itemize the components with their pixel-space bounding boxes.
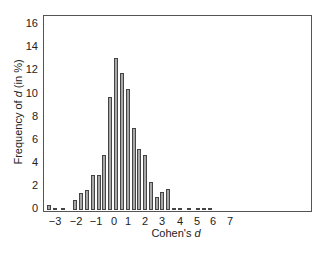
histogram-bar — [137, 149, 141, 210]
histogram-bar — [208, 208, 212, 210]
histogram-bar — [132, 128, 136, 210]
histogram-bar — [120, 73, 124, 210]
y-tick-label: 0 — [18, 202, 38, 214]
histogram-bar — [108, 97, 112, 210]
histogram-bar — [172, 208, 176, 210]
histogram-bar — [73, 200, 77, 210]
x-tick-label: −1 — [86, 215, 106, 227]
histogram-bar — [53, 208, 57, 210]
histogram-bar — [126, 89, 130, 210]
histogram-bar — [91, 175, 95, 210]
histogram-bar — [85, 190, 89, 210]
y-tick-label: 2 — [18, 179, 38, 191]
x-tick-label: −2 — [66, 215, 86, 227]
histogram-bar — [114, 58, 118, 210]
histogram-bar — [160, 192, 164, 210]
histogram-bar — [102, 155, 106, 210]
histogram-bar — [47, 205, 51, 210]
histogram-bar — [143, 155, 147, 210]
histogram-bar — [196, 208, 200, 210]
histogram-bar — [155, 197, 159, 210]
x-tick-label: 3 — [152, 215, 172, 227]
y-tick-label: 16 — [18, 17, 38, 29]
histogram-bar — [97, 175, 101, 210]
x-axis-label: Cohen's d — [151, 227, 200, 239]
histogram-bar — [149, 182, 153, 210]
y-tick-label: 14 — [18, 40, 38, 52]
histogram-bar — [178, 208, 182, 210]
x-tick-label: −3 — [45, 215, 65, 227]
histogram-bar — [202, 208, 206, 210]
y-axis-label: Frequency of d (in %) — [12, 59, 24, 164]
plot-frame — [43, 15, 312, 212]
histogram-bar — [187, 208, 191, 210]
x-tick-label: 7 — [220, 215, 240, 227]
histogram-bar — [166, 189, 170, 210]
histogram-bar — [61, 208, 65, 210]
histogram-bar — [79, 193, 83, 210]
histogram-chart: 0246810121416 −3−2−101234567 Frequency o… — [0, 0, 325, 254]
